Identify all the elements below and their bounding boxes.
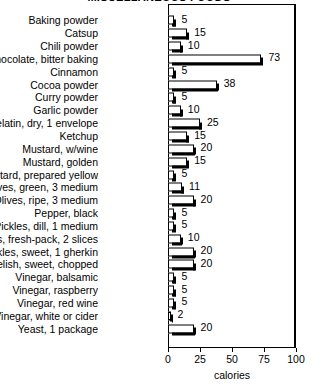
bar: 5	[168, 16, 174, 25]
category-label: Garlic powder	[33, 105, 98, 116]
bar-row: Pepper, black5	[0, 207, 318, 220]
bar-row: Vinegar, balsamic5	[0, 271, 318, 284]
bar-container: 15	[168, 157, 187, 166]
bar-row: Mustard, w/wine20	[0, 142, 318, 155]
bar-row: Catsup15	[0, 27, 318, 40]
bar-row: Mustard, prepared yellow5	[0, 168, 318, 181]
bar-row: Pickles, sweet, 1 gherkin20	[0, 245, 318, 258]
category-label: Yeast, 1 package	[18, 323, 98, 334]
bar-row: Pickles, dill, 1 medium5	[0, 220, 318, 233]
bar-row: Chili powder10	[0, 40, 318, 53]
category-label: Cinnamon	[50, 66, 98, 77]
x-tick	[200, 348, 201, 352]
x-axis-title: calories	[168, 369, 296, 381]
bar: 5	[168, 298, 174, 307]
bar-value-label: 11	[189, 181, 200, 192]
bar-value-label: 5	[181, 66, 187, 77]
bar-value-label: 5	[181, 207, 187, 218]
bar: 5	[168, 93, 174, 102]
bar: 38	[168, 80, 217, 89]
bar-row: Mustard, golden15	[0, 155, 318, 168]
bar: 20	[168, 196, 194, 205]
bar-row: Baking powder5	[0, 14, 318, 27]
bar-value-label: 5	[181, 271, 187, 282]
category-label: Mustard, golden	[23, 156, 98, 167]
bar-container: 73	[168, 54, 261, 63]
bar-container: 38	[168, 80, 217, 89]
bar-row: Vinegar, red wine5	[0, 297, 318, 310]
bar-value-label: 25	[207, 117, 219, 128]
bar: 15	[168, 157, 187, 166]
category-label: Baking powder	[29, 15, 98, 26]
bar: 10	[168, 234, 181, 243]
bar-row: Cocoa powder38	[0, 78, 318, 91]
bar-container: 5	[168, 170, 174, 179]
category-label: Pickles, dill, 1 medium	[0, 220, 98, 231]
bar-container: 20	[168, 324, 194, 333]
bar-value-label: 73	[268, 53, 280, 64]
bar-value-label: 5	[181, 168, 187, 179]
bar-row: Chocolate, bitter baking73	[0, 53, 318, 66]
bar-container: 2	[168, 311, 171, 320]
bar: 5	[168, 273, 174, 282]
bar-rows: Baking powder5Catsup15Chili powder10Choc…	[0, 14, 318, 335]
x-tick	[168, 348, 169, 352]
x-tick-label: 50	[226, 353, 238, 365]
x-tick-label: 75	[258, 353, 270, 365]
miscellaneous-foods-bar-chart: MISCELLANEOUS FOODS Baking powder5Catsup…	[0, 0, 318, 390]
bar: 5	[168, 221, 174, 230]
category-label: Chili powder	[40, 41, 98, 52]
bar: 5	[168, 67, 174, 76]
bar-value-label: 38	[224, 79, 236, 90]
bar-container: 15	[168, 29, 187, 38]
bar: 15	[168, 29, 187, 38]
bar-row: Gelatin, dry, 1 envelope25	[0, 117, 318, 130]
bar-row: Ketchup15	[0, 130, 318, 143]
bar-container: 25	[168, 119, 200, 128]
bar-value-label: 10	[188, 40, 200, 51]
bar: 20	[168, 247, 194, 256]
category-label: Cocoa powder	[30, 79, 98, 90]
bar-value-label: 10	[188, 104, 200, 115]
x-tick	[296, 348, 297, 352]
bar-container: 20	[168, 196, 194, 205]
bar-value-label: 5	[181, 14, 187, 25]
bar-container: 5	[168, 221, 174, 230]
bar-row: Olives, ripe, 3 medium20	[0, 194, 318, 207]
bar-value-label: 20	[201, 194, 213, 205]
bar-value-label: 5	[181, 91, 187, 102]
bar: 5	[168, 170, 174, 179]
bar-row: Garlic powder10	[0, 104, 318, 117]
bar: 10	[168, 106, 181, 115]
category-label: Pickles, fresh-pack, 2 slices	[0, 233, 98, 244]
x-tick	[232, 348, 233, 352]
bar-row: Vinegar, raspberry5	[0, 284, 318, 297]
bar-value-label: 2	[178, 310, 184, 321]
bar-value-label: 15	[194, 130, 206, 141]
category-label: Pickles, sweet, 1 gherkin	[0, 246, 98, 257]
bar-value-label: 20	[201, 258, 213, 269]
category-label: Vinegar, balsamic	[15, 272, 98, 283]
bar-row: Curry powder5	[0, 91, 318, 104]
bar: 11	[168, 183, 182, 192]
category-label: Gelatin, dry, 1 envelope	[0, 118, 98, 129]
bar-row: Vinegar, white or cider2	[0, 309, 318, 322]
x-tick-label: 25	[194, 353, 206, 365]
bar-container: 5	[168, 298, 174, 307]
category-label: Relish, sweet, chopped	[0, 259, 98, 270]
category-label: Vinegar, white or cider	[0, 310, 98, 321]
bar: 2	[168, 311, 171, 320]
bar: 15	[168, 132, 187, 141]
bar-row: Pickles, fresh-pack, 2 slices10	[0, 232, 318, 245]
bar-container: 5	[168, 273, 174, 282]
bar: 73	[168, 54, 261, 63]
bar-row: Relish, sweet, chopped20	[0, 258, 318, 271]
bar-container: 15	[168, 132, 187, 141]
bar: 5	[168, 209, 174, 218]
bar-container: 20	[168, 144, 194, 153]
bar: 20	[168, 260, 194, 269]
chart-title: MISCELLANEOUS FOODS	[0, 0, 318, 3]
category-label: Olives, ripe, 3 medium	[0, 195, 98, 206]
bar: 20	[168, 324, 194, 333]
category-label: Ketchup	[59, 131, 98, 142]
